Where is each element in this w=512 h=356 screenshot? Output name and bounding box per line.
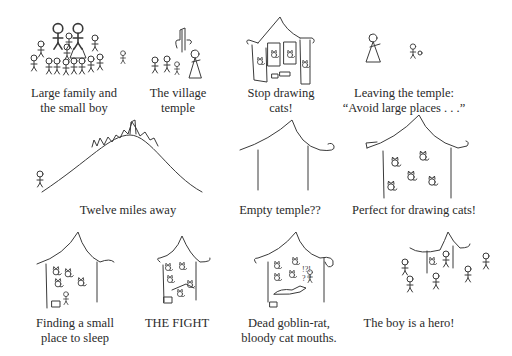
caption-line: cats! (242, 101, 320, 116)
panel-7-temple-art (366, 115, 468, 198)
caption-large-family: Large family and the small boy (24, 86, 124, 116)
panel-8-temple-art (37, 232, 114, 308)
caption-stop-drawing-cats: Stop drawing cats! (242, 86, 320, 116)
caption-finding-a-small-place: Finding a small place to sleep (30, 316, 120, 346)
caption-line: Finding a small (30, 316, 120, 331)
caption-line: Perfect for drawing cats! (346, 203, 482, 218)
caption-line: THE FIGHT (138, 316, 216, 331)
caption-the-boy-is-a-hero: The boy is a hero! (354, 316, 464, 331)
caption-leaving-temple: Leaving the temple: “Avoid large places … (334, 86, 474, 116)
panel-6-temple-art (240, 120, 334, 190)
caption-line: Large family and (24, 86, 124, 101)
panel-3-temple-art (247, 17, 315, 84)
caption-line: place to sleep (30, 331, 120, 346)
svg-text:!?!: !?! (302, 265, 311, 274)
caption-line: Twelve miles away (68, 203, 188, 218)
caption-line: Leaving the temple: (334, 86, 474, 101)
panel-5-hill-art (37, 120, 202, 192)
caption-line: Dead goblin-rat, (234, 316, 344, 331)
panel-9-temple-art (158, 236, 211, 303)
caption-village-temple: The village temple (140, 86, 216, 116)
panel-1-family-art (31, 24, 125, 75)
caption-empty-temple: Empty temple?? (232, 203, 328, 218)
caption-line: The boy is a hero! (354, 316, 464, 331)
caption-line: The village (140, 86, 216, 101)
caption-line: bloody cat mouths. (234, 331, 344, 346)
caption-line: the small boy (24, 101, 124, 116)
panel-4-figures-art (366, 34, 422, 62)
comic-illustrations: !?! ? ? (0, 0, 512, 356)
caption-the-fight: THE FIGHT (138, 316, 216, 331)
caption-line: Stop drawing (242, 86, 320, 101)
caption-perfect-for-drawing-cats: Perfect for drawing cats! (346, 203, 482, 218)
panel-11-temple-art (402, 232, 489, 292)
panel-10-temple-art: !?! ? ? (254, 232, 333, 307)
caption-line: “Avoid large places . . .” (334, 101, 474, 116)
caption-dead-goblin-rat: Dead goblin-rat, bloody cat mouths. (234, 316, 344, 346)
panel-2-temple-art (152, 28, 201, 78)
svg-text:? ?: ? ? (302, 274, 312, 283)
caption-line: temple (140, 101, 216, 116)
caption-line: Empty temple?? (232, 203, 328, 218)
caption-twelve-miles-away: Twelve miles away (68, 203, 188, 218)
